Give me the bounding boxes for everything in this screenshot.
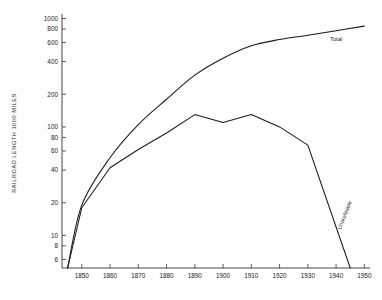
y-axis-tick-label: 8 xyxy=(22,242,58,249)
chart-figure: RAILROAD LENGTH 1000 MILES 6810204060801… xyxy=(0,0,382,300)
y-axis-tick-label: 400 xyxy=(22,58,58,65)
y-axis-title: RAILROAD LENGTH 1000 MILES xyxy=(11,63,17,223)
x-axis-ticks xyxy=(82,264,365,268)
y-axis-tick-label: 60 xyxy=(22,147,58,154)
x-axis-tick-label: 1930 xyxy=(294,272,322,279)
series-line-unprofitable xyxy=(68,115,351,268)
y-axis-tick-label: 600 xyxy=(22,39,58,46)
x-axis-tick-label: 1950 xyxy=(350,272,378,279)
x-axis-tick-label: 1860 xyxy=(96,272,124,279)
x-axis-tick-label: 1900 xyxy=(209,272,237,279)
series-line-total xyxy=(68,26,365,268)
y-axis-ticks xyxy=(62,18,66,259)
x-axis-tick-label: 1940 xyxy=(322,272,350,279)
x-axis-tick-label: 1850 xyxy=(68,272,96,279)
y-axis-tick-label: 100 xyxy=(22,123,58,130)
y-axis-tick-label: 80 xyxy=(22,134,58,141)
x-axis-tick-label: 1890 xyxy=(181,272,209,279)
x-axis-tick-label: 1880 xyxy=(153,272,181,279)
y-axis-tick-label: 20 xyxy=(22,199,58,206)
y-axis-tick-label: 10 xyxy=(22,232,58,239)
y-axis-tick-label: 1000 xyxy=(22,15,58,22)
y-axis-tick-label: 6 xyxy=(22,256,58,263)
chart-series-lines xyxy=(68,26,365,268)
y-axis-tick-label: 800 xyxy=(22,25,58,32)
x-axis-tick-label: 1920 xyxy=(266,272,294,279)
x-axis-tick-label: 1910 xyxy=(237,272,265,279)
x-axis-tick-label: 1870 xyxy=(124,272,152,279)
y-axis-tick-label: 40 xyxy=(22,166,58,173)
series-label-total: Total xyxy=(330,36,342,42)
chart-axes xyxy=(62,14,370,268)
y-axis-tick-label: 200 xyxy=(22,91,58,98)
